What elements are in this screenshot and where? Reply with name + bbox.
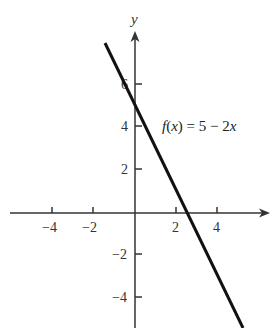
y-tick-label: 2 [121, 162, 128, 177]
x-tick-label: −4 [42, 220, 57, 235]
function-graph: y −4 −2 2 4 6 4 2 −2 −4 f(x) = 5 − 2x [0, 0, 272, 328]
y-axis-label: y [129, 11, 138, 27]
function-label: f(x) = 5 − 2x [162, 118, 237, 135]
y-tick-label: −2 [112, 247, 127, 262]
x-tick-label: 2 [172, 220, 179, 235]
function-line [105, 43, 243, 328]
x-tick-label: −2 [82, 220, 97, 235]
y-tick-label: 4 [121, 119, 128, 134]
x-tick-label: 4 [213, 220, 220, 235]
y-tick-label: −4 [112, 290, 127, 305]
